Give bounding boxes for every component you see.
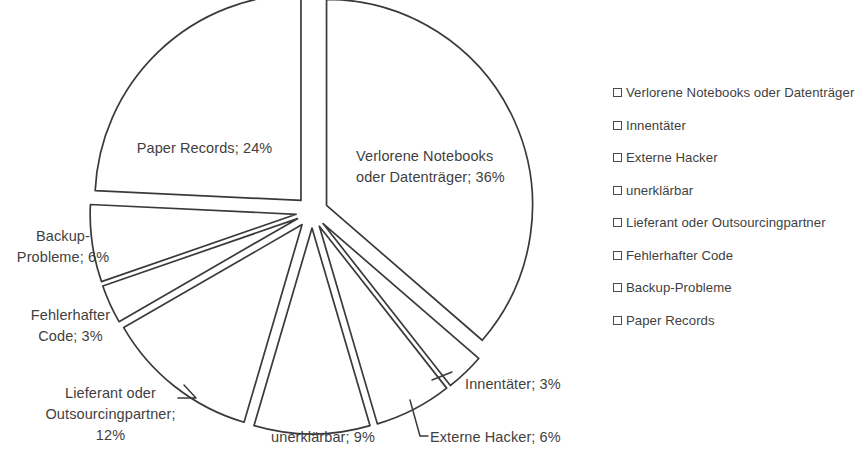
legend-item-label: Paper Records	[626, 314, 715, 328]
legend-item-label: unerklärbar	[626, 184, 693, 198]
legend-item[interactable]: Lieferant oder Outsourcingpartner	[613, 216, 858, 230]
legend-swatch-icon	[613, 121, 622, 130]
slice-label-lieferant: Lieferant oder Outsourcingpartner; 12%	[28, 383, 193, 446]
legend-item-label: Lieferant oder Outsourcingpartner	[626, 216, 826, 230]
legend-swatch-icon	[613, 251, 622, 260]
legend-item-label: Verlorene Notebooks oder Datenträger	[626, 86, 854, 100]
pie-slice-paper-records[interactable]	[95, 0, 301, 200]
legend-swatch-icon	[613, 88, 622, 97]
legend-item[interactable]: Verlorene Notebooks oder Datenträger	[613, 86, 858, 100]
slice-label-backup-probleme: Backup- Probleme; 6%	[2, 226, 124, 268]
legend-item[interactable]: Externe Hacker	[613, 151, 858, 165]
slice-label-paper-records: Paper Records; 24%	[117, 138, 292, 159]
legend-item[interactable]: Innentäter	[613, 119, 858, 133]
legend-swatch-icon	[613, 218, 622, 227]
legend-item-label: Externe Hacker	[626, 151, 718, 165]
legend-item[interactable]: Fehlerhafter Code	[613, 249, 858, 263]
legend-swatch-icon	[613, 153, 622, 162]
legend-item-label: Backup-Probleme	[626, 281, 732, 295]
legend-swatch-icon	[613, 283, 622, 292]
legend-swatch-icon	[613, 316, 622, 325]
slice-label-fehlerhafter-code: Fehlerhafter Code; 3%	[8, 305, 133, 347]
pie-chart-figure: Verlorene Notebooks oder Datenträger; 36…	[0, 0, 858, 457]
legend-item[interactable]: Paper Records	[613, 314, 858, 328]
chart-legend: Verlorene Notebooks oder DatenträgerInne…	[613, 86, 858, 346]
slice-label-verlorene-notebooks: Verlorene Notebooks oder Datenträger; 36…	[356, 146, 546, 188]
slice-label-externe-hacker: Externe Hacker; 6%	[430, 427, 600, 448]
legend-item-label: Innentäter	[626, 119, 686, 133]
legend-item[interactable]: Backup-Probleme	[613, 281, 858, 295]
pie-slices-group	[90, 0, 532, 434]
legend-swatch-icon	[613, 186, 622, 195]
legend-item[interactable]: unerklärbar	[613, 184, 858, 198]
slice-label-unerklaerbar: unerklärbar; 9%	[248, 427, 398, 448]
legend-item-label: Fehlerhafter Code	[626, 249, 733, 263]
slice-label-innentaeter: Innentäter; 3%	[465, 374, 625, 395]
